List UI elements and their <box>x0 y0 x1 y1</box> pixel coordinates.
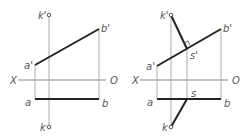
label-x: X <box>9 75 18 86</box>
k-prime-point <box>169 13 173 17</box>
k-point <box>169 125 173 129</box>
right-projection: k' k a' b' s' s a b X O <box>131 10 240 133</box>
label-b-prime: b' <box>101 23 110 34</box>
label-s-prime: s' <box>190 50 198 61</box>
k-point <box>47 125 51 129</box>
label-o: O <box>232 75 240 86</box>
label-a-prime: a' <box>146 61 155 72</box>
label-a: a <box>25 97 31 108</box>
line-k-s <box>171 99 187 127</box>
label-k: k <box>40 122 47 133</box>
label-k: k <box>162 122 169 133</box>
label-a: a <box>147 97 153 108</box>
line-a-prime-b-prime <box>157 29 221 66</box>
label-s: s <box>191 88 196 99</box>
projection-diagram: k' k a' b' a b X O k' k a' b' s' s a b X… <box>0 0 249 140</box>
k-prime-point <box>47 13 51 17</box>
label-a-prime: a' <box>24 60 33 71</box>
label-k-prime: k' <box>38 10 47 21</box>
label-x: X <box>131 75 140 86</box>
line-a-prime-b-prime <box>35 29 99 65</box>
label-k-prime: k' <box>160 10 169 21</box>
label-b-prime: b' <box>223 23 232 34</box>
left-projection: k' k a' b' a b X O <box>9 10 118 133</box>
line-k-prime-s-prime <box>171 15 187 49</box>
label-b: b <box>102 98 108 109</box>
label-b: b <box>224 98 230 109</box>
label-o: O <box>110 75 118 86</box>
